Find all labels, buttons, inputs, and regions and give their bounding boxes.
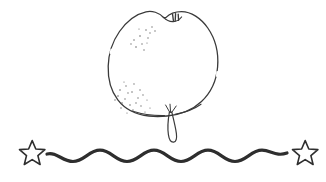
- line-art-illustration: [0, 0, 326, 182]
- outline-gap-left: [111, 50, 112, 53]
- illustration-canvas: Fruit Line Drawing with Wavy Divider: [0, 0, 326, 182]
